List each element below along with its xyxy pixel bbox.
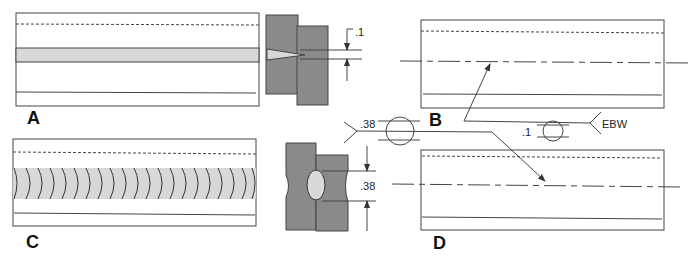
panel-c-plan-view — [13, 139, 256, 226]
section-c-dimension: .38 — [360, 180, 375, 192]
upper-weld-size: .38 — [360, 118, 375, 130]
label-d: D — [433, 233, 446, 253]
label-b: B — [429, 110, 442, 130]
weld-symbol-ebw: .1 EBW — [464, 64, 628, 141]
section-a-dimension: .1 — [355, 26, 364, 38]
ebw-process: EBW — [602, 118, 628, 130]
welding-diagram: A .1 B .1 EBW . — [0, 0, 699, 260]
panel-a-cross-section: .1 — [266, 15, 364, 105]
panel-d-plan-view — [392, 150, 680, 230]
label-a: A — [27, 108, 40, 128]
panel-b-plan-view — [400, 20, 690, 108]
ebw-size: .1 — [522, 126, 531, 138]
label-c: C — [26, 232, 39, 252]
panel-c-cross-section: .38 — [286, 143, 376, 231]
panel-a-plan-view — [16, 13, 259, 106]
